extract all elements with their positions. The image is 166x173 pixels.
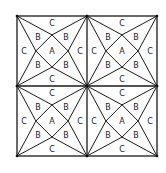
label-c: C	[49, 75, 55, 84]
label-c: C	[21, 117, 27, 126]
label-b: B	[105, 61, 111, 70]
tiling-diagram: ABBBBCCCCABBBBCCCCABBBBCCCCABBBBCCCC	[0, 0, 166, 173]
label-b: B	[35, 103, 41, 112]
label-b: B	[133, 61, 139, 70]
label-a: A	[49, 117, 55, 126]
label-b: B	[35, 61, 41, 70]
vertex-dot	[156, 15, 159, 18]
label-b: B	[133, 33, 139, 42]
label-b: B	[133, 131, 139, 140]
label-b: B	[63, 33, 69, 42]
label-c: C	[77, 47, 83, 56]
vertex-dot	[16, 85, 19, 88]
vertex-dot	[156, 85, 159, 88]
vertex-dot	[16, 155, 19, 158]
label-b: B	[63, 61, 69, 70]
label-b: B	[35, 33, 41, 42]
label-c: C	[119, 145, 125, 154]
label-c: C	[119, 75, 125, 84]
label-b: B	[63, 131, 69, 140]
vertex-dot	[86, 85, 89, 88]
label-c: C	[77, 117, 83, 126]
label-a: A	[119, 47, 125, 56]
label-c: C	[91, 47, 97, 56]
label-c: C	[21, 47, 27, 56]
label-a: A	[49, 47, 55, 56]
label-b: B	[105, 103, 111, 112]
label-c: C	[119, 19, 125, 28]
vertex-dot	[156, 155, 159, 158]
vertex-dot	[86, 15, 89, 18]
label-c: C	[147, 47, 153, 56]
label-c: C	[91, 117, 97, 126]
label-b: B	[133, 103, 139, 112]
label-c: C	[147, 117, 153, 126]
label-a: A	[119, 117, 125, 126]
label-b: B	[63, 103, 69, 112]
vertex-dot	[86, 155, 89, 158]
label-c: C	[49, 89, 55, 98]
label-b: B	[35, 131, 41, 140]
label-b: B	[105, 33, 111, 42]
label-b: B	[105, 131, 111, 140]
vertex-dot	[16, 15, 19, 18]
label-c: C	[119, 89, 125, 98]
label-c: C	[49, 19, 55, 28]
label-c: C	[49, 145, 55, 154]
